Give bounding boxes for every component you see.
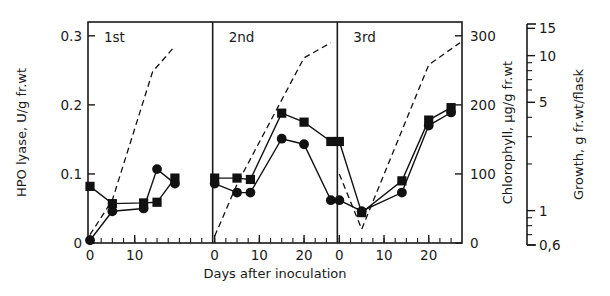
marker-circle (277, 134, 287, 144)
marker-square (335, 137, 344, 146)
y-left-tick-label: 0.2 (61, 97, 82, 113)
panel-data-2nd (210, 43, 336, 236)
series-line-hpo-lyase (339, 108, 451, 213)
panel-data-3rd (334, 43, 460, 230)
marker-circle (232, 188, 242, 198)
series-line-chlorophyll (90, 169, 175, 240)
growth-tick-label: 15 (539, 20, 556, 36)
chart-svg: 00.10.20.3HPO lyase, U/g fr.wt0100200300… (0, 0, 610, 296)
y-right1-tick-label: 0 (470, 235, 479, 251)
series-line-growth (90, 46, 175, 235)
panel-data-1st (85, 46, 180, 245)
x-tick-label: 0 (335, 247, 344, 263)
panel-label-1st: 1st (104, 29, 125, 45)
x-tick-label: 20 (295, 247, 312, 263)
marker-circle (446, 108, 456, 118)
marker-circle (326, 195, 336, 205)
x-tick-label: 0 (86, 247, 95, 263)
marker-square (299, 118, 308, 127)
marker-square (246, 175, 255, 184)
x-tick-label: 0 (210, 247, 219, 263)
marker-circle (85, 235, 95, 245)
marker-circle (357, 206, 367, 216)
y-left-tick-label: 0.1 (61, 166, 82, 182)
y-axis-left: 00.10.20.3HPO lyase, U/g fr.wt (14, 28, 95, 251)
x-axis: 0100102001020Days after inoculation (86, 235, 451, 281)
y-right1-axis-title: Chlorophyll, μg/g fr.wt (500, 61, 515, 204)
marker-square (85, 182, 94, 191)
series-line-chlorophyll (215, 139, 331, 201)
marker-square (326, 137, 335, 146)
marker-circle (107, 206, 117, 216)
marker-circle (334, 195, 344, 205)
marker-circle (299, 139, 309, 149)
x-tick-label: 10 (126, 247, 143, 263)
y-right1-tick-label: 200 (470, 97, 496, 113)
marker-circle (152, 164, 162, 174)
x-tick-label: 10 (251, 247, 268, 263)
y-left-tick-label: 0 (73, 235, 82, 251)
series-line-hpo-lyase (215, 113, 331, 179)
growth-tick-label: 10 (539, 48, 556, 64)
y-right1-tick-label: 100 (470, 166, 496, 182)
y-left-tick-label: 0.3 (61, 28, 82, 44)
marker-square (152, 198, 161, 207)
growth-tick-label: 1 (539, 203, 548, 219)
x-tick-label: 10 (375, 247, 392, 263)
marker-circle (210, 179, 220, 189)
panel-label-3rd: 3rd (353, 29, 375, 45)
growth-tick-label: 0,6 (539, 237, 560, 253)
y-axis-right-chlorophyll: 0100200300Chlorophyll, μg/g fr.wt (455, 28, 515, 251)
series-line-hpo-lyase (90, 178, 175, 204)
x-tick-label: 20 (420, 247, 437, 263)
y-axis-right-growth: 0,6151015Growth, g fr.wt/flask (527, 20, 586, 253)
marker-circle (170, 179, 180, 189)
marker-square (277, 109, 286, 118)
marker-circle (246, 188, 256, 198)
panel-labels: 1st2nd3rd (104, 29, 376, 45)
y-right2-axis-title: Growth, g fr.wt/flask (571, 68, 586, 200)
marker-circle (397, 188, 407, 198)
marker-circle (424, 121, 434, 131)
growth-tick-label: 5 (539, 94, 548, 110)
figure-container: 00.10.20.3HPO lyase, U/g fr.wt0100200300… (0, 0, 610, 296)
panel-label-2nd: 2nd (229, 29, 255, 45)
marker-circle (139, 204, 149, 214)
x-axis-title: Days after inoculation (203, 266, 346, 281)
y-right1-tick-label: 300 (470, 28, 496, 44)
y-left-axis-title: HPO lyase, U/g fr.wt (14, 68, 29, 197)
series-line-growth (215, 43, 331, 236)
